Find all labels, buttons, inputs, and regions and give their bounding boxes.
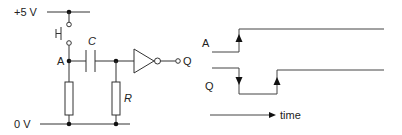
timing-diagram: A Q time bbox=[202, 29, 384, 121]
rising-edge-arrow-icon bbox=[236, 34, 243, 42]
resistor-r-icon bbox=[112, 82, 120, 115]
capacitor-label: C bbox=[88, 35, 96, 47]
supply-label: +5 V bbox=[14, 6, 38, 18]
rising-edge-arrow-icon bbox=[274, 77, 281, 85]
inverter-gate-icon bbox=[134, 49, 161, 73]
falling-edge-arrow-icon bbox=[236, 77, 243, 85]
pulldown-resistor-icon bbox=[65, 82, 73, 115]
circuit-schematic: +5 V A C Q bbox=[14, 6, 192, 130]
diagram-canvas: +5 V A C Q bbox=[0, 0, 402, 135]
signal-a-label: A bbox=[202, 37, 210, 49]
node-a-label: A bbox=[57, 55, 65, 67]
arrow-right-icon bbox=[269, 112, 276, 118]
resistor-label: R bbox=[124, 92, 132, 104]
ground-junction-left bbox=[67, 122, 72, 127]
ground-junction-right bbox=[114, 122, 119, 127]
push-switch-icon bbox=[56, 22, 71, 45]
capacitor-icon bbox=[86, 50, 95, 72]
signal-q-label: Q bbox=[205, 80, 214, 92]
output-terminal bbox=[176, 59, 181, 64]
ground-label: 0 V bbox=[14, 118, 31, 130]
time-axis-label: time bbox=[280, 109, 301, 121]
output-label: Q bbox=[183, 55, 192, 67]
